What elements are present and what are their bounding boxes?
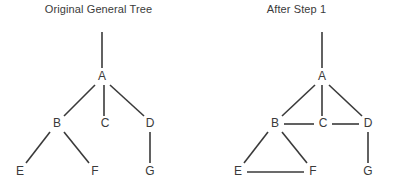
node-label-G: G <box>363 164 372 178</box>
edge-B-F <box>282 132 307 163</box>
diagram-panel-after-step-1: After Step 1ABCDEFG <box>198 0 395 192</box>
graph-after-step-1: ABCDEFG <box>198 0 395 192</box>
edge-A-D <box>329 85 362 116</box>
node-label-D: D <box>146 116 155 130</box>
edge-A-B <box>282 85 315 116</box>
tree-transformation-figure: Original General TreeABCDEFGAfter Step 1… <box>0 0 395 192</box>
edge-B-E <box>244 132 268 163</box>
node-label-F: F <box>309 164 316 178</box>
edge-B-E <box>26 132 50 163</box>
node-label-C: C <box>101 116 110 130</box>
edge-A-D <box>110 85 144 116</box>
node-label-E: E <box>16 164 24 178</box>
node-label-C: C <box>319 116 328 130</box>
node-label-D: D <box>364 116 373 130</box>
node-label-G: G <box>145 164 154 178</box>
node-label-B: B <box>53 116 61 130</box>
graph-original-general-tree: ABCDEFG <box>0 0 197 192</box>
edge-B-F <box>64 132 89 163</box>
node-label-B: B <box>271 116 279 130</box>
node-label-A: A <box>318 69 326 83</box>
node-label-A: A <box>98 69 106 83</box>
diagram-panel-original-general-tree: Original General TreeABCDEFG <box>0 0 197 192</box>
edge-A-B <box>64 85 95 116</box>
node-label-F: F <box>91 164 98 178</box>
node-label-E: E <box>234 164 242 178</box>
